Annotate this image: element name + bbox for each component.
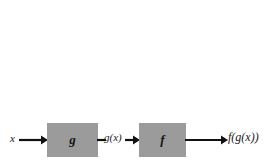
function-box-f: f [139,123,186,157]
function-box-f-label: f [160,133,164,146]
function-composition-diagram: x g g(x) f [0,0,271,166]
arrow-intermediate-to-f-icon [125,134,140,146]
function-box-g: g [47,123,98,157]
intermediate-expression-label: g(x) [104,132,122,143]
input-variable-label: x [10,133,15,144]
arrow-input-to-g-icon [19,134,48,146]
function-box-g-label: g [69,133,76,146]
diagram-flow-row: x g g(x) f [0,116,271,166]
output-expression-label: f(g(x)) [228,131,259,143]
arrow-f-to-output-icon [185,134,228,146]
